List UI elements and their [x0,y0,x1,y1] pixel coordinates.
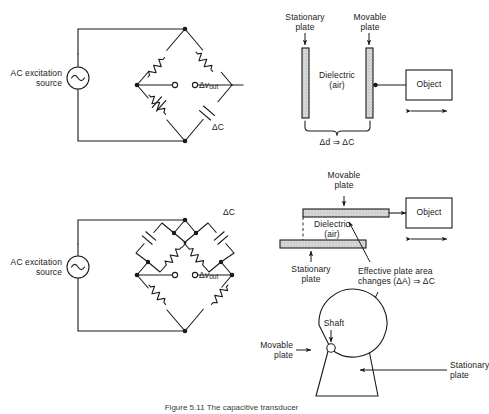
arm-bottom-right-resistor-2 [195,280,231,312]
delta-c-label-top: ΔC [212,122,224,132]
arm-bottom-right-capacitor [193,94,220,122]
arm-top-right-parallel-rc [183,220,234,275]
figure-caption: Figure 5.11 The capacitive transducer [165,403,299,412]
gap-brace [305,121,370,135]
ac-source-label-top: AC excitation source [11,68,62,88]
stationary-plate-vertical [302,48,309,118]
movable-plate-label-area: Movable plate [328,170,361,190]
dielectric-label-gap: Dielectric (air) [319,70,355,90]
dielectric-label-area: Dielectric (air) [314,219,350,239]
arm-top-left-parallel-rc [136,220,186,275]
ac-source-icon-top [67,67,89,89]
output-terminal-right-top [192,82,197,87]
delta-c-label-bottom: ΔC [223,207,235,217]
ac-source-icon-bottom [67,256,89,278]
stationary-plate-label-area: Stationary plate [291,264,330,284]
movable-plate-vertical [366,48,373,118]
stationary-plate-label-rotary: Stationary plate [450,360,489,380]
transducer-rotary-diagram [296,289,447,396]
stationary-plate-horizontal [280,240,366,248]
output-label-bottom: Δvout [199,270,218,282]
ac-source-label-bottom: AC excitation source [11,257,62,277]
movable-plate-label-gap: Movable plate [354,12,387,32]
shaft-label: Shaft [324,318,344,328]
output-terminal-right-bottom [192,272,197,277]
object-label-gap: Object [416,79,441,89]
area-relation-label: Effective plate area changes (ΔA) ⇒ ΔC [358,266,435,286]
arm-top-left-resistor [145,48,176,80]
object-label-area: Object [416,207,441,217]
arm-bottom-left-resistor-2 [145,280,176,312]
output-terminal-left-top [172,82,177,87]
output-terminal-left-bottom [172,272,177,277]
movable-plate-label-rotary: Movable plate [260,340,293,360]
movable-plate-horizontal [303,209,389,217]
output-label-top: Δvout [199,80,218,92]
gap-relation-label: Δd ⇒ ΔC [320,137,355,147]
shaft-circle [327,344,335,352]
arm-top-right-resistor [192,48,223,80]
stationary-plate-label-gap: Stationary plate [285,12,324,32]
